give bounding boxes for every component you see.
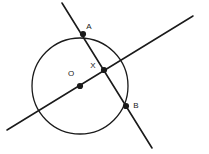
- point-O-label: O: [68, 69, 74, 78]
- point-A-label: A: [86, 22, 92, 31]
- point-B-label: B: [133, 101, 138, 110]
- point-O-dot: [77, 83, 83, 89]
- point-X-label: X: [90, 61, 96, 70]
- geometry-svg: A X B O: [0, 0, 209, 154]
- point-X-dot: [101, 67, 107, 73]
- line-through-O-and-X: [7, 16, 193, 130]
- point-B-dot: [123, 103, 129, 109]
- point-A-dot: [80, 31, 86, 37]
- geometry-diagram-canvas: A X B O: [0, 0, 209, 154]
